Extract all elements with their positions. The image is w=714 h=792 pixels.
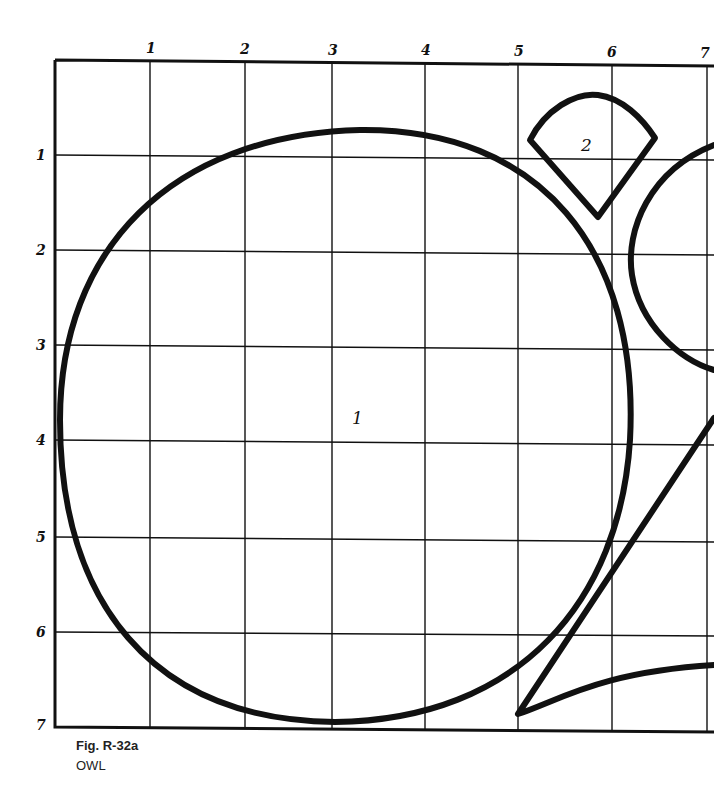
y-label-1: 1 — [36, 147, 46, 163]
y-label-3: 3 — [36, 337, 46, 353]
pattern-grid-diagram: 1 2 3 4 5 6 7 1 2 3 4 5 6 7 1 2 — [0, 0, 714, 792]
x-label-3: 3 — [328, 42, 338, 58]
x-label-7: 7 — [700, 45, 710, 61]
x-label-1: 1 — [146, 40, 156, 56]
x-axis-labels: 1 2 3 4 5 6 7 — [146, 40, 710, 61]
x-label-2: 2 — [239, 41, 250, 57]
grid — [55, 60, 714, 732]
piece-1-label: 1 — [352, 408, 363, 428]
x-label-4: 4 — [421, 42, 431, 58]
x-label-6: 6 — [607, 44, 617, 60]
y-label-6: 6 — [36, 624, 46, 640]
y-axis-labels: 1 2 3 4 5 6 7 — [35, 147, 46, 733]
y-label-5: 5 — [36, 529, 46, 545]
piece-2-label: 2 — [580, 135, 592, 155]
partial-wing-shape — [518, 418, 714, 714]
y-label-7: 7 — [36, 717, 46, 733]
partial-circle-right — [631, 145, 714, 370]
x-label-5: 5 — [514, 43, 524, 59]
figure-caption: Fig. R-32a — [76, 738, 138, 753]
figure-title: OWL — [76, 758, 106, 773]
y-label-4: 4 — [36, 432, 46, 448]
y-label-2: 2 — [35, 242, 46, 258]
